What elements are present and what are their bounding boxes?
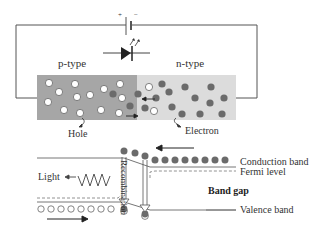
conduction-electrons — [121, 148, 229, 164]
hole-label: Hole — [68, 129, 87, 139]
light-wave-icon — [65, 174, 110, 186]
battery-plus: + — [118, 12, 122, 19]
valence-band-label: Valence band — [240, 205, 294, 215]
electron-flow-arrow — [156, 145, 194, 151]
valence-holes — [38, 206, 114, 212]
p-type-label: p-type — [58, 58, 86, 69]
led-icon — [103, 38, 150, 61]
fermi-lines — [37, 171, 236, 198]
light-label: Light — [38, 172, 60, 182]
recombination-label: Recombination — [119, 160, 128, 215]
band-gap-label: Band gap — [208, 186, 249, 196]
hole-flow-arrow — [47, 216, 88, 222]
battery-icon — [126, 17, 131, 35]
electron-label: Electron — [185, 126, 219, 136]
fermi-level-label: Fermi level — [240, 167, 286, 177]
n-type-label: n-type — [176, 58, 204, 69]
battery-minus: − — [134, 12, 138, 19]
band-lines — [37, 158, 236, 210]
